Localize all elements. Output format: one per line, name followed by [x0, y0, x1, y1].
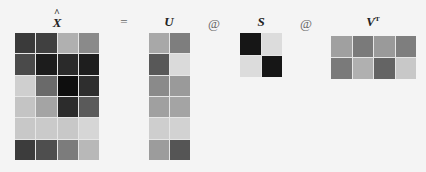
matrix-cell — [149, 140, 169, 160]
matrix-cell — [149, 54, 169, 74]
matrix-cell — [58, 97, 78, 117]
matrix-cell — [170, 118, 190, 138]
matrix-cell — [262, 33, 283, 55]
matrix-s — [240, 33, 282, 77]
matrix-cell — [396, 58, 417, 79]
matrix-cell — [353, 36, 374, 57]
matrix-cell — [240, 33, 261, 55]
matrix-cell — [331, 58, 352, 79]
matrix-cell — [353, 58, 374, 79]
matrix-cell — [79, 140, 99, 160]
matrix-cell — [15, 118, 35, 138]
matrix-cell — [79, 118, 99, 138]
matrix-cell — [149, 76, 169, 96]
x-hat-symbol: X — [53, 16, 62, 29]
matrix-cell — [79, 33, 99, 53]
vt-base-symbol: V — [366, 14, 375, 29]
matrix-cell — [149, 33, 169, 53]
matrix-cell — [396, 36, 417, 57]
matrix-cell — [36, 33, 56, 53]
matrix-cell — [58, 140, 78, 160]
matrix-cell — [36, 97, 56, 117]
matrix-x-hat — [15, 33, 99, 160]
transpose-superscript: T — [375, 15, 380, 23]
matrix-cell — [36, 76, 56, 96]
matrix-cell — [374, 36, 395, 57]
matrix-cell — [149, 97, 169, 117]
matrix-cell — [79, 76, 99, 96]
matrix-cell — [36, 140, 56, 160]
matrix-cell — [58, 33, 78, 53]
matrix-u — [149, 33, 190, 160]
matrix-cell — [374, 58, 395, 79]
matrix-cell — [15, 54, 35, 74]
u-label: U — [154, 15, 184, 28]
vt-label: VT — [358, 15, 388, 28]
matrix-cell — [58, 118, 78, 138]
matrix-cell — [170, 54, 190, 74]
matrix-cell — [15, 97, 35, 117]
matrix-cell — [36, 118, 56, 138]
matrix-cell — [58, 54, 78, 74]
matrix-cell — [170, 140, 190, 160]
matrix-cell — [331, 36, 352, 57]
matrix-cell — [240, 56, 261, 78]
matrix-cell — [262, 56, 283, 78]
matrix-cell — [79, 97, 99, 117]
matrix-cell — [15, 33, 35, 53]
matrix-cell — [170, 76, 190, 96]
matrix-v-transpose — [331, 36, 416, 79]
matrix-cell — [170, 97, 190, 117]
s-label: S — [246, 15, 276, 28]
equals-sign: = — [116, 15, 132, 28]
matrix-cell — [149, 118, 169, 138]
x-hat-label: X — [42, 16, 72, 29]
matrix-cell — [58, 76, 78, 96]
matrix-cell — [15, 140, 35, 160]
matrix-cell — [15, 76, 35, 96]
matmul-operator-1: @ — [206, 17, 222, 30]
matmul-operator-2: @ — [298, 17, 314, 30]
matrix-cell — [36, 54, 56, 74]
matrix-cell — [170, 33, 190, 53]
matrix-cell — [79, 54, 99, 74]
